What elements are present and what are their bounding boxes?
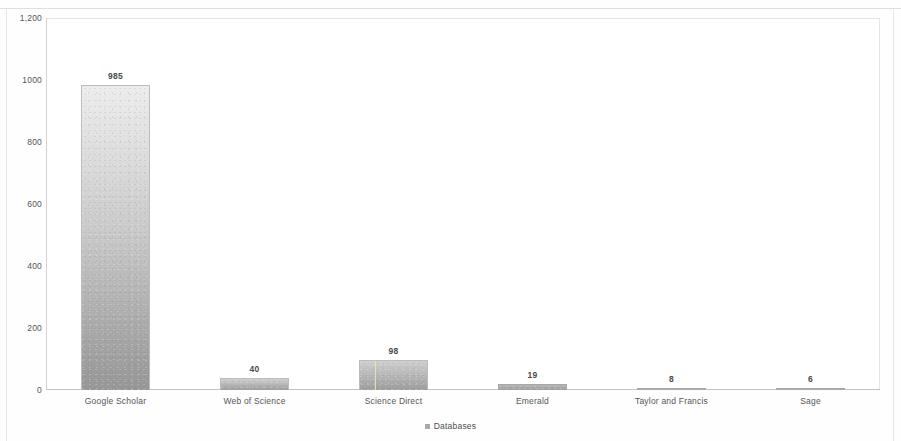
legend-label: Databases <box>434 421 476 431</box>
bar-value-label: 40 <box>220 364 290 374</box>
scan-streak-artifact <box>375 361 376 390</box>
bar-group: 19 <box>498 18 568 390</box>
bar[interactable] <box>498 384 568 390</box>
x-axis-category-label: Google Scholar <box>46 396 185 406</box>
bar-group: 40 <box>220 18 290 390</box>
x-axis-category-label: Web of Science <box>185 396 324 406</box>
x-axis-category-label: Science Direct <box>324 396 463 406</box>
legend-square-marker <box>425 424 430 429</box>
bar-group: 8 <box>637 18 707 390</box>
chart-legend: Databases <box>0 421 901 431</box>
bar-scan-texture <box>777 389 845 391</box>
bar-scan-texture <box>82 86 150 390</box>
bar[interactable] <box>220 378 290 390</box>
bar-chart: 020040060080010001,200 98540981986 Googl… <box>0 0 901 441</box>
bar[interactable] <box>81 85 151 390</box>
bar-group: 98 <box>359 18 429 390</box>
x-axis-category-label: Taylor and Francis <box>602 396 741 406</box>
category-axis: Google ScholarWeb of ScienceScience Dire… <box>46 396 880 414</box>
y-axis-tick-label: 400 <box>4 261 42 271</box>
bar-scan-texture <box>499 385 567 390</box>
y-axis-tick-label: 1000 <box>4 75 42 85</box>
bar-scan-texture <box>221 379 289 390</box>
value-axis: 020040060080010001,200 <box>0 0 42 441</box>
bar-group: 6 <box>776 18 846 390</box>
x-axis-category-label: Sage <box>741 396 880 406</box>
bar-group: 985 <box>81 18 151 390</box>
bars-layer: 98540981986 <box>46 18 880 390</box>
bar-scan-texture <box>360 361 428 390</box>
bar-scan-texture <box>638 389 706 391</box>
x-axis-category-label: Emerald <box>463 396 602 406</box>
y-axis-tick-label: 0 <box>4 385 42 395</box>
y-axis-tick-label: 200 <box>4 323 42 333</box>
bar-value-label: 6 <box>776 374 846 384</box>
bar-value-label: 8 <box>637 374 707 384</box>
bar-value-label: 985 <box>81 71 151 81</box>
y-axis-tick-label: 1,200 <box>4 13 42 23</box>
y-axis-tick-label: 800 <box>4 137 42 147</box>
bar-value-label: 98 <box>359 346 429 356</box>
bar[interactable] <box>637 388 707 391</box>
bar[interactable] <box>359 360 429 390</box>
bar[interactable] <box>776 388 846 391</box>
bar-value-label: 19 <box>498 370 568 380</box>
y-axis-tick-label: 600 <box>4 199 42 209</box>
